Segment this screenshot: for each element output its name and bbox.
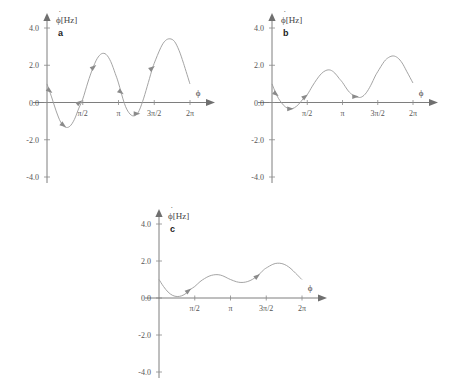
y-axis-ticks: 4.02.00.0-2.0-4.0 xyxy=(251,24,275,182)
panel-letter: a xyxy=(58,28,64,38)
flow-direction-arrow xyxy=(272,90,280,98)
x-tick-label: π xyxy=(228,304,232,313)
x-axis-title: ϕ xyxy=(308,283,313,293)
x-tick-label: π xyxy=(116,109,120,118)
flow-direction-arrow xyxy=(148,64,156,72)
y-tick-label: 4.0 xyxy=(29,24,39,33)
y-axis-ticks: 4.02.00.0-2.0-4.0 xyxy=(26,24,50,182)
x-tick-label: π/2 xyxy=(302,109,312,118)
y-tick-label: 2.0 xyxy=(141,257,151,266)
y-tick-label: -4.0 xyxy=(26,173,39,182)
x-tick-label: 3π/2 xyxy=(371,109,385,118)
x-tick-label: π/2 xyxy=(78,109,88,118)
flow-direction-arrow xyxy=(134,111,141,116)
y-tick-label: 2.0 xyxy=(29,61,39,70)
y-tick-label: -4.0 xyxy=(138,368,151,377)
y-axis-arrowhead xyxy=(43,13,50,21)
y-axis-title-dot: ˙ xyxy=(283,9,286,19)
x-axis-arrowhead xyxy=(318,295,327,302)
y-tick-label: -2.0 xyxy=(26,136,39,145)
x-tick-label: 3π/2 xyxy=(259,304,273,313)
x-tick-label: π xyxy=(340,109,344,118)
panel-b: 4.02.00.0-2.0-4.0π/2π3π/22πϕ[Hz]˙ϕb xyxy=(225,0,451,195)
panel-letter: c xyxy=(170,224,175,234)
x-axis-title: ϕ xyxy=(196,88,201,98)
y-tick-label: 0.0 xyxy=(254,99,264,108)
flow-arrows xyxy=(272,90,359,111)
y-tick-label: -2.0 xyxy=(251,136,264,145)
y-tick-label: 4.0 xyxy=(254,24,264,33)
y-tick-label: 0.0 xyxy=(141,294,151,303)
x-tick-label: 2π xyxy=(186,109,194,118)
y-axis-arrowhead xyxy=(268,13,275,21)
y-axis-ticks: 4.02.00.0-2.0-4.0 xyxy=(138,220,162,377)
x-axis-arrowhead xyxy=(206,99,215,106)
y-axis-arrowhead xyxy=(155,209,162,217)
x-axis-title: ϕ xyxy=(419,88,424,98)
y-tick-label: -4.0 xyxy=(251,173,264,182)
axes xyxy=(258,13,438,183)
y-axis-title-dot: ˙ xyxy=(58,9,61,19)
x-tick-label: 2π xyxy=(409,109,417,118)
y-tick-label: 4.0 xyxy=(141,220,151,229)
panel-a: 4.02.00.0-2.0-4.0π/2π3π/22πϕ[Hz]˙ϕa xyxy=(0,0,228,195)
y-tick-label: 2.0 xyxy=(254,61,264,70)
curve-c xyxy=(159,263,302,296)
y-axis-title-dot: ˙ xyxy=(170,205,173,215)
y-axis-title: ϕ[Hz]˙ xyxy=(281,9,302,26)
x-tick-label: 3π/2 xyxy=(147,109,161,118)
flow-direction-arrow xyxy=(287,106,294,111)
y-tick-label: 0.0 xyxy=(29,99,39,108)
flow-direction-arrow xyxy=(90,63,98,71)
x-tick-label: 2π xyxy=(298,304,306,313)
x-axis-arrowhead xyxy=(429,99,438,106)
panel-letter: b xyxy=(283,28,289,38)
flow-arrows xyxy=(46,63,157,129)
y-axis-title: ϕ[Hz]˙ xyxy=(168,205,189,222)
y-axis-title: ϕ[Hz]˙ xyxy=(56,9,77,26)
axes xyxy=(145,209,327,378)
x-tick-label: π/2 xyxy=(190,304,200,313)
panel-c: 4.02.00.0-2.0-4.0π/2π3π/22πϕ[Hz]˙ϕc xyxy=(112,196,340,390)
flow-direction-arrow xyxy=(117,88,125,96)
axes xyxy=(33,13,215,183)
y-tick-label: -2.0 xyxy=(138,331,151,340)
flow-direction-arrow xyxy=(352,94,359,99)
